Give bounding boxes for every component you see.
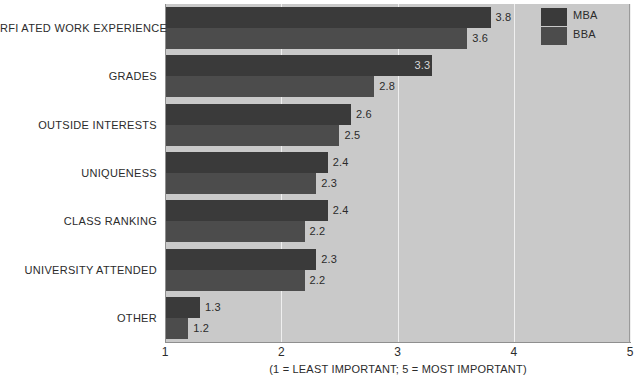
bar-group: 1.31.2 <box>165 297 629 339</box>
category-label: RFI ATED WORK EXPERIENCE <box>0 21 157 35</box>
bar-mba-3 <box>165 152 328 173</box>
bar-group: 2.42.3 <box>165 152 629 194</box>
legend-label-mba: MBA <box>573 9 598 21</box>
bar-bba-0 <box>165 28 467 49</box>
bar-mba-5 <box>165 249 316 270</box>
plot-area: 3.83.63.32.82.62.52.42.32.42.22.32.21.31… <box>165 4 630 342</box>
bar-value-label: 2.2 <box>310 221 326 242</box>
bar-group: 2.62.5 <box>165 104 629 146</box>
x-tick-label-4: 4 <box>510 345 517 359</box>
bar-value-label: 1.2 <box>193 318 209 339</box>
bar-value-label: 1.3 <box>205 297 221 318</box>
bar-value-label: 2.4 <box>333 200 349 221</box>
bar-chart: 3.83.63.32.82.62.52.42.32.42.22.32.21.31… <box>0 0 643 382</box>
legend-label-bba: BBA <box>573 28 596 40</box>
plot-inner: 3.83.63.32.82.62.52.42.32.42.22.32.21.31… <box>165 4 629 342</box>
bar-value-label: 2.8 <box>379 76 395 97</box>
legend-item-bba: BBA <box>541 27 631 45</box>
bar-mba-1 <box>165 55 432 76</box>
bar-mba-0 <box>165 7 491 28</box>
bar-value-label: 2.6 <box>356 104 372 125</box>
bar-bba-4 <box>165 221 305 242</box>
legend-swatch-mba <box>541 8 567 26</box>
bar-value-label: 2.5 <box>344 125 360 146</box>
bar-group: 3.32.8 <box>165 55 629 97</box>
legend: MBABBA <box>541 8 631 48</box>
x-tick-label-1: 1 <box>162 345 169 359</box>
legend-item-mba: MBA <box>541 8 631 26</box>
x-tick-label-2: 2 <box>278 345 285 359</box>
bar-bba-5 <box>165 270 305 291</box>
bar-bba-1 <box>165 76 374 97</box>
bar-mba-6 <box>165 297 200 318</box>
bar-value-label: 3.3 <box>414 55 430 76</box>
x-axis-caption: (1 = LEAST IMPORTANT; 5 = MOST IMPORTANT… <box>165 363 631 375</box>
x-tick-label-3: 3 <box>394 345 401 359</box>
x-axis-ticks: 12345 <box>0 345 643 365</box>
bar-bba-3 <box>165 173 316 194</box>
bar-value-label: 3.6 <box>472 28 488 49</box>
category-label: GRADES <box>0 69 157 83</box>
bar-mba-4 <box>165 200 328 221</box>
bar-group: 2.42.2 <box>165 200 629 242</box>
bar-bba-2 <box>165 125 339 146</box>
bar-mba-2 <box>165 104 351 125</box>
bar-bba-6 <box>165 318 188 339</box>
category-axis-labels: RFI ATED WORK EXPERIENCEGRADESOUTSIDE IN… <box>0 4 165 342</box>
bar-value-label: 2.4 <box>333 152 349 173</box>
category-label: CLASS RANKING <box>0 214 157 228</box>
category-label: UNIQUENESS <box>0 166 157 180</box>
gridline-5 <box>630 4 631 342</box>
x-tick-label-5: 5 <box>627 345 634 359</box>
bar-value-label: 2.3 <box>321 173 337 194</box>
category-label: OTHER <box>0 311 157 325</box>
category-label: UNIVERSITY ATTENDED <box>0 263 157 277</box>
legend-swatch-bba <box>541 27 567 45</box>
bar-group: 2.32.2 <box>165 249 629 291</box>
bar-value-label: 2.3 <box>321 249 337 270</box>
y-axis-line <box>165 4 166 342</box>
category-label: OUTSIDE INTERESTS <box>0 118 157 132</box>
bar-value-label: 3.8 <box>496 7 512 28</box>
bar-value-label: 2.2 <box>310 270 326 291</box>
x-axis-line <box>165 342 631 343</box>
